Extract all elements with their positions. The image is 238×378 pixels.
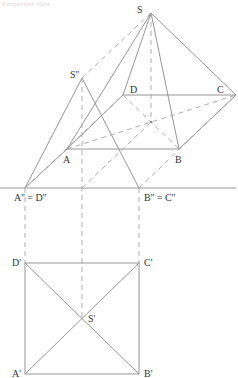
label-S-prime: S' xyxy=(88,313,96,324)
projection-connectors xyxy=(25,13,236,319)
edge-SA xyxy=(67,13,151,149)
label-A-D-double-prime: A'' = D'' xyxy=(14,192,46,203)
label-C: C xyxy=(217,84,224,95)
label-B: B xyxy=(175,154,182,165)
edge-SC xyxy=(151,13,236,95)
label-S-double-prime: S'' xyxy=(70,69,79,80)
perspective-pyramid xyxy=(67,13,236,149)
caption: Perspective View xyxy=(2,0,52,8)
connector-center xyxy=(82,122,151,188)
pyramid-projection-diagram: Perspective View xyxy=(0,0,238,378)
edge-SB xyxy=(151,13,179,149)
label-S: S xyxy=(137,4,143,15)
elev-edge-left xyxy=(25,78,82,188)
label-A-prime: A' xyxy=(12,368,21,378)
label-D-prime: D' xyxy=(12,257,21,268)
label-C-prime: C' xyxy=(144,257,153,268)
label-B-C-double-prime: B'' = C'' xyxy=(144,192,175,203)
label-A: A xyxy=(63,154,71,165)
label-D: D xyxy=(130,84,137,95)
label-B-prime: B' xyxy=(144,368,153,378)
edge-SD xyxy=(123,13,151,95)
